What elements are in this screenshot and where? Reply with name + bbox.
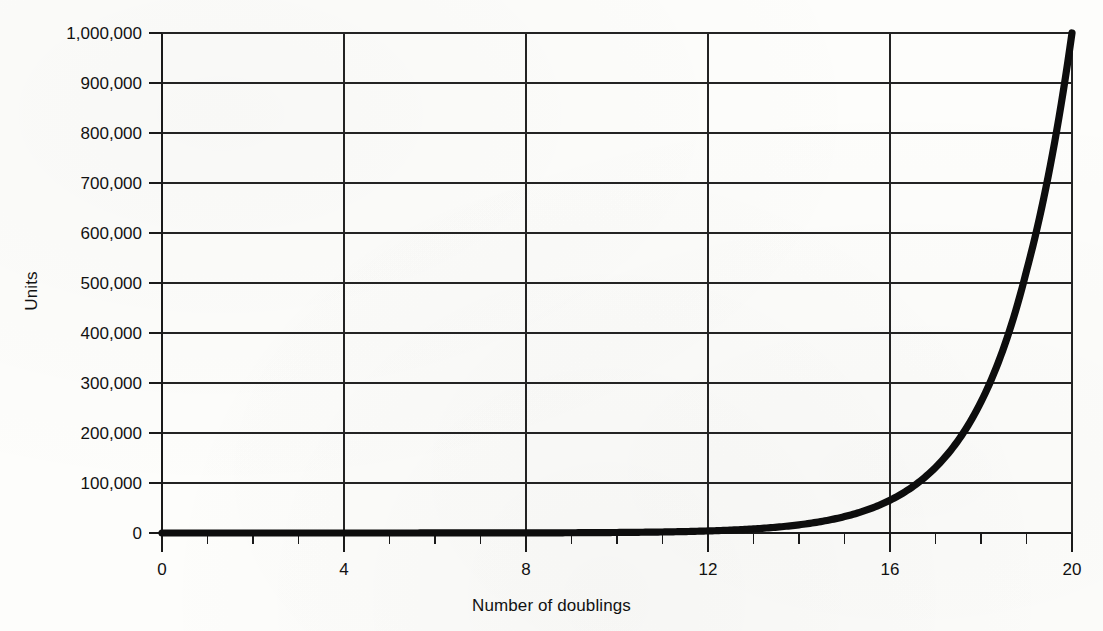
horizontal-gridlines bbox=[162, 83, 1072, 483]
x-tick-label: 16 bbox=[881, 560, 900, 579]
y-tick-label: 700,000 bbox=[81, 174, 142, 193]
y-tick-label: 800,000 bbox=[81, 124, 142, 143]
y-tick-label: 100,000 bbox=[81, 474, 142, 493]
y-tick-label: 1,000,000 bbox=[66, 24, 142, 43]
exponential-growth-chart: 0100,000200,000300,000400,000500,000600,… bbox=[0, 0, 1103, 631]
y-tick-label: 500,000 bbox=[81, 274, 142, 293]
y-tick-label: 0 bbox=[133, 524, 142, 543]
y-tick-label: 900,000 bbox=[81, 74, 142, 93]
x-tick-label: 0 bbox=[157, 560, 166, 579]
x-axis-tick-labels: 048121620 bbox=[157, 560, 1081, 579]
x-tick-label: 4 bbox=[339, 560, 348, 579]
y-tick-label: 400,000 bbox=[81, 324, 142, 343]
y-tick-label: 600,000 bbox=[81, 224, 142, 243]
x-tick-label: 20 bbox=[1063, 560, 1082, 579]
y-tick-label: 300,000 bbox=[81, 374, 142, 393]
chart-page: 0100,000200,000300,000400,000500,000600,… bbox=[0, 0, 1103, 631]
x-axis-title: Number of doublings bbox=[0, 596, 1103, 616]
y-axis-tick-marks bbox=[149, 33, 162, 533]
y-axis-tick-labels: 0100,000200,000300,000400,000500,000600,… bbox=[66, 24, 142, 543]
y-tick-label: 200,000 bbox=[81, 424, 142, 443]
x-tick-label: 8 bbox=[521, 560, 530, 579]
y-axis-title: Units bbox=[22, 241, 42, 341]
x-tick-label: 12 bbox=[699, 560, 718, 579]
